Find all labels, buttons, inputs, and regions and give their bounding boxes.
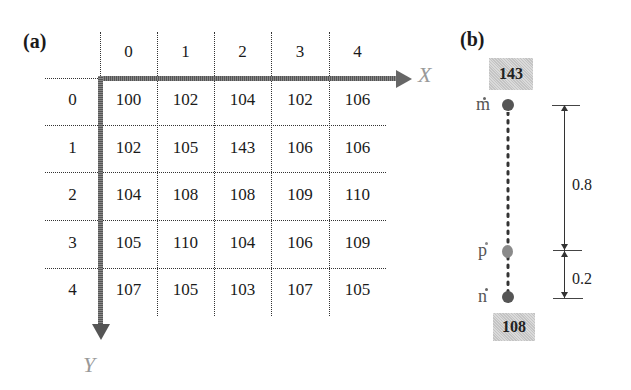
dimension-tick-bottom (553, 298, 583, 299)
grid-vline (329, 32, 330, 316)
grid-cell: 105 (157, 138, 214, 158)
point-n-dot (502, 291, 514, 303)
point-p-dot (502, 245, 513, 258)
point-label-p-dot (485, 242, 488, 245)
arrow-down-icon (561, 244, 568, 250)
grid-hline (45, 172, 386, 173)
grid-cell: 102 (271, 90, 329, 110)
arrow-down-icon (561, 292, 568, 298)
x-axis-arrow-shaft (98, 76, 398, 81)
grid-hline (45, 268, 386, 269)
grid-vline (271, 32, 272, 316)
bottom-value-box: 108 (493, 313, 535, 341)
panel-b-label: (b) (460, 28, 484, 51)
row-header: 0 (45, 90, 100, 110)
dimension-line (564, 105, 565, 298)
grid-cell: 110 (157, 233, 214, 253)
grid-cell: 104 (100, 185, 157, 205)
column-header: 4 (329, 42, 386, 62)
arrow-up-icon (561, 251, 568, 257)
grid-vline (157, 32, 158, 316)
x-axis-label: X (418, 62, 431, 88)
point-m-dot (502, 99, 514, 111)
grid-cell: 106 (329, 90, 386, 110)
panel-a-label: (a) (23, 30, 46, 53)
y-axis-arrowhead-icon (92, 324, 110, 340)
grid-cell: 102 (157, 90, 214, 110)
grid-cell: 100 (100, 90, 157, 110)
grid-cell: 143 (214, 138, 271, 158)
grid-cell: 107 (100, 280, 157, 300)
grid-hline (45, 125, 386, 126)
point-label-n-dot (485, 288, 488, 291)
column-header: 1 (157, 42, 214, 62)
grid-cell: 104 (214, 90, 271, 110)
grid-cell: 105 (329, 280, 386, 300)
point-label-m-dot (483, 97, 486, 100)
row-header: 3 (45, 233, 100, 253)
arrow-up-icon (561, 105, 568, 111)
grid-cell: 110 (329, 185, 386, 205)
row-header: 1 (45, 138, 100, 158)
distance-label-upper: 0.8 (572, 176, 592, 194)
top-value-box: 143 (489, 58, 533, 90)
grid-cell: 105 (100, 233, 157, 253)
grid-cell: 102 (100, 138, 157, 158)
grid-vline (214, 32, 215, 316)
x-axis-arrowhead-icon (396, 70, 412, 88)
column-header: 3 (271, 42, 329, 62)
grid-cell: 108 (214, 185, 271, 205)
grid-cell: 106 (271, 138, 329, 158)
grid-cell: 104 (214, 233, 271, 253)
grid-cell: 107 (271, 280, 329, 300)
grid-cell: 103 (214, 280, 271, 300)
grid-cell: 109 (329, 233, 386, 253)
grid-cell: 105 (157, 280, 214, 300)
y-axis-arrow-shaft (98, 76, 103, 326)
grid-cell: 108 (157, 185, 214, 205)
row-header: 4 (45, 280, 100, 300)
grid-cell: 109 (271, 185, 329, 205)
grid-cell: 106 (329, 138, 386, 158)
column-header: 2 (214, 42, 271, 62)
grid-hline (45, 78, 100, 79)
distance-label-lower: 0.2 (572, 270, 592, 288)
grid-cell: 106 (271, 233, 329, 253)
dotted-connector (505, 112, 511, 296)
grid-hline (45, 220, 386, 221)
row-header: 2 (45, 185, 100, 205)
y-axis-label: Y (83, 352, 95, 378)
column-header: 0 (100, 42, 157, 62)
